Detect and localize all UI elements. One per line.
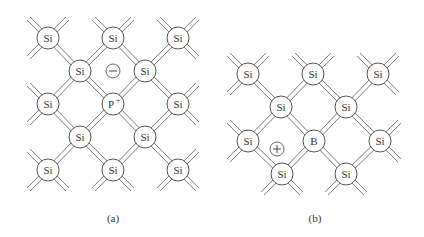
atom-silicon: Si	[37, 159, 59, 181]
atom-label: Si	[43, 32, 52, 44]
atom-label: Si	[173, 32, 182, 44]
atom-silicon: Si	[335, 96, 357, 118]
atom-label: B	[310, 135, 317, 147]
atom-label: Si	[140, 131, 149, 143]
silicon-doping-diagram: SiSiSiSiSiSiP+SiSiSiSiSiSiSiSiSiSiSiSiBS…	[0, 0, 424, 237]
atom-silicon: Si	[237, 130, 259, 152]
atom-label: Si	[173, 164, 182, 176]
atom-silicon: Si	[69, 126, 91, 148]
atom-silicon: Si	[37, 93, 59, 115]
atom-label: Si	[308, 68, 317, 80]
atom-silicon: Si	[167, 159, 189, 181]
atoms: SiSiSiSiSiSiP+SiSiSiSiSiSiSiSiSiSiSiSiBS…	[37, 27, 391, 185]
atom-charge-superscript: +	[116, 96, 121, 105]
atom-silicon: Si	[69, 60, 91, 82]
atom-silicon: Si	[102, 159, 124, 181]
atom-label: Si	[108, 32, 117, 44]
atom-silicon: Si	[271, 163, 293, 185]
atom-label: Si	[140, 65, 149, 77]
atom-silicon: Si	[237, 63, 259, 85]
atom-silicon: Si	[302, 63, 324, 85]
atom-label: Si	[276, 101, 285, 113]
atom-boron: B	[303, 130, 325, 152]
atom-label: Si	[277, 168, 286, 180]
atom-silicon: Si	[134, 60, 156, 82]
atom-silicon: Si	[167, 93, 189, 115]
atom-label: Si	[108, 164, 117, 176]
atom-label: Si	[341, 168, 350, 180]
atom-label: Si	[375, 135, 384, 147]
electron-minus-icon	[106, 64, 120, 78]
atom-label: P	[108, 98, 114, 110]
atom-silicon: Si	[134, 126, 156, 148]
atom-silicon: Si	[367, 63, 389, 85]
atom-label: Si	[75, 65, 84, 77]
hole-plus-icon	[270, 142, 284, 156]
atom-label: Si	[75, 131, 84, 143]
atom-label: Si	[341, 101, 350, 113]
atom-label: Si	[173, 98, 182, 110]
atom-silicon: Si	[167, 27, 189, 49]
atom-phosphorus: P+	[102, 93, 124, 115]
atom-label: Si	[373, 68, 382, 80]
atom-label: Si	[43, 98, 52, 110]
atom-silicon: Si	[335, 163, 357, 185]
panel-b-caption: (b)	[309, 212, 322, 224]
atom-silicon: Si	[37, 27, 59, 49]
atom-label: Si	[243, 135, 252, 147]
atom-silicon: Si	[369, 130, 391, 152]
atom-silicon: Si	[102, 27, 124, 49]
atom-label: Si	[243, 68, 252, 80]
panel-a-caption: (a)	[107, 212, 119, 224]
atom-label: Si	[43, 164, 52, 176]
atom-silicon: Si	[270, 96, 292, 118]
